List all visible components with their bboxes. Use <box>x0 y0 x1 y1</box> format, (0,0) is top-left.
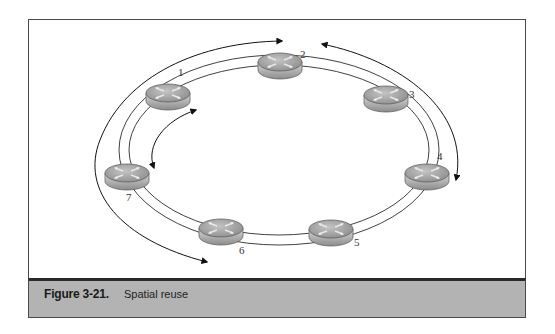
inner-left-flow-arrow <box>152 110 196 168</box>
router-node-4 <box>405 164 449 190</box>
figure-caption: Spatial reuse <box>124 288 188 300</box>
node-label-2: 2 <box>300 48 306 60</box>
outer-left-flow-arrow <box>95 41 282 262</box>
node-label-7: 7 <box>126 191 132 203</box>
node-label-4: 4 <box>437 150 443 162</box>
router-node-6 <box>199 219 243 245</box>
figure-number: Figure 3-21. <box>44 287 109 301</box>
figure-caption-bar: Figure 3-21. Spatial reuse <box>28 278 526 318</box>
router-node-3 <box>364 86 408 112</box>
router-node-1 <box>146 84 190 110</box>
node-label-1: 1 <box>178 66 184 78</box>
router-node-5 <box>309 220 353 246</box>
node-label-3: 3 <box>409 88 415 100</box>
router-node-7 <box>105 164 149 190</box>
node-label-6: 6 <box>239 244 245 256</box>
node-label-5: 5 <box>354 236 360 248</box>
router-node-2 <box>258 53 302 79</box>
ring-outer-fiber <box>119 55 439 245</box>
